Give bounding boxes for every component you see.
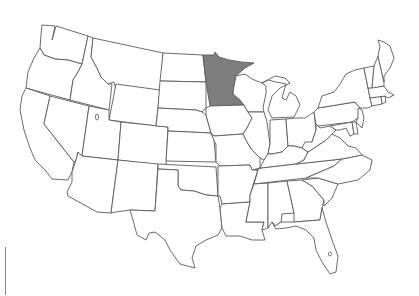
state-new-york[interactable] (318, 68, 372, 108)
state-kansas[interactable] (166, 131, 216, 162)
scale-bar (5, 247, 6, 295)
state-south-dakota[interactable] (158, 81, 206, 112)
state-colorado[interactable] (118, 122, 168, 166)
state-north-dakota[interactable] (160, 53, 206, 82)
us-states-map (0, 0, 419, 296)
state-new-mexico[interactable] (111, 160, 158, 213)
great-salt-lake (95, 114, 98, 120)
state-michigan[interactable] (262, 76, 300, 118)
state-rhode-island[interactable] (381, 96, 386, 104)
lake-okeechobee (328, 252, 331, 256)
state-wyoming[interactable] (109, 84, 160, 126)
